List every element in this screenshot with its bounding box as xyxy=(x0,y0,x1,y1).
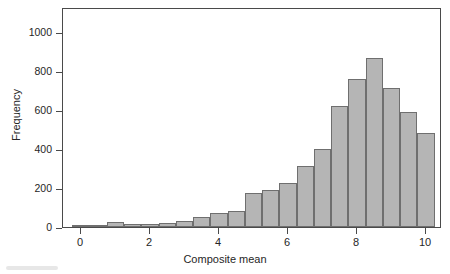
histogram-bar xyxy=(228,211,245,227)
y-axis-tick xyxy=(56,33,62,34)
histogram-bar xyxy=(107,222,124,227)
histogram-bar xyxy=(90,225,107,227)
histogram-bar xyxy=(279,183,296,227)
y-axis-tick xyxy=(56,72,62,73)
bars-container xyxy=(63,9,440,227)
histogram-bar xyxy=(383,88,400,227)
x-axis-tick-label: 6 xyxy=(267,236,307,248)
x-axis-tick xyxy=(425,228,426,234)
histogram-bar xyxy=(159,223,176,227)
x-axis-tick xyxy=(356,228,357,234)
histogram-bar xyxy=(297,166,314,227)
histogram-bar xyxy=(176,221,193,227)
scan-artifact xyxy=(6,266,58,270)
y-axis-tick-label: 600 xyxy=(10,104,52,116)
histogram-bar xyxy=(141,224,158,228)
x-axis-tick xyxy=(218,228,219,234)
x-axis-tick-label: 4 xyxy=(198,236,238,248)
y-axis-tick xyxy=(56,189,62,190)
y-axis-tick xyxy=(56,111,62,112)
histogram-bar xyxy=(400,112,417,227)
histogram-bar xyxy=(245,193,262,227)
histogram-bar xyxy=(210,213,227,227)
histogram-bar xyxy=(417,133,434,227)
histogram-bar xyxy=(72,225,89,227)
histogram-bar xyxy=(193,217,210,227)
x-axis-tick-label: 8 xyxy=(336,236,376,248)
x-axis-tick-label: 0 xyxy=(60,236,100,248)
histogram-bar xyxy=(366,58,383,227)
x-axis-tick-label: 2 xyxy=(129,236,169,248)
histogram-bar xyxy=(262,190,279,227)
x-axis-tick xyxy=(80,228,81,234)
y-axis-tick-label: 400 xyxy=(10,143,52,155)
y-axis-tick xyxy=(56,150,62,151)
histogram-bar xyxy=(124,224,141,228)
y-axis-tick-label: 1000 xyxy=(10,26,52,38)
x-axis-title: Composite mean xyxy=(0,253,450,265)
histogram-bar xyxy=(331,106,348,227)
x-axis-tick xyxy=(287,228,288,234)
y-axis-tick xyxy=(56,228,62,229)
y-axis-tick-label: 0 xyxy=(10,221,52,233)
plot-area xyxy=(62,8,441,228)
histogram-bar xyxy=(314,149,331,227)
x-axis-tick-label: 10 xyxy=(405,236,445,248)
x-axis-tick xyxy=(149,228,150,234)
y-axis-tick-label: 800 xyxy=(10,65,52,77)
histogram-figure: Frequency 02004006008001000 0246810 Comp… xyxy=(0,0,450,274)
y-axis-tick-label: 200 xyxy=(10,182,52,194)
histogram-bar xyxy=(348,79,365,227)
